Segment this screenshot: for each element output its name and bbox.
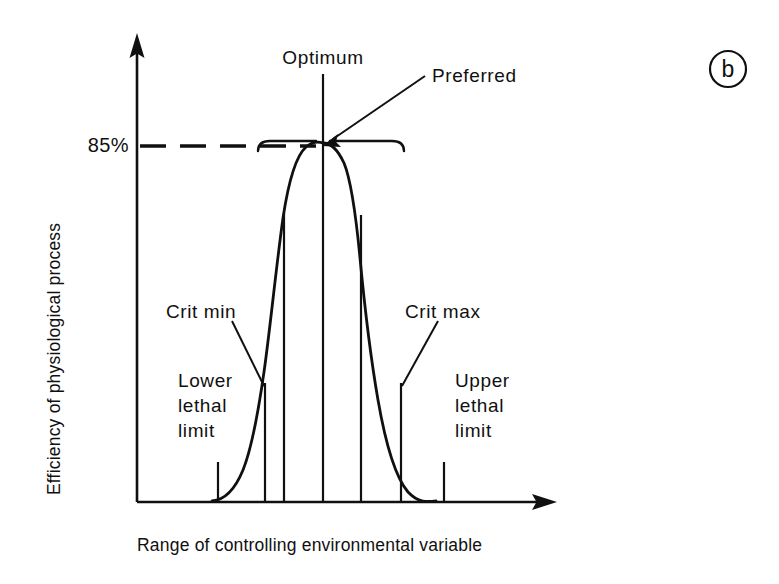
label-crit-max: Crit max bbox=[405, 301, 481, 322]
label-upper-lethal-limit-line1: Upper bbox=[455, 370, 510, 391]
panel-label-text: b bbox=[722, 56, 735, 82]
leader-line-preferred bbox=[333, 76, 425, 139]
label-lower-lethal-limit: Lower lethal limit bbox=[178, 370, 233, 441]
y-axis-tick-label-85-percent: 85% bbox=[88, 134, 129, 156]
label-preferred: Preferred bbox=[432, 65, 517, 86]
x-axis-title: Range of controlling environmental varia… bbox=[137, 535, 482, 555]
leader-lines-group bbox=[232, 76, 438, 386]
label-upper-lethal-limit: Upper lethal limit bbox=[455, 370, 510, 441]
label-lower-lethal-limit-line3: limit bbox=[178, 420, 215, 441]
label-upper-lethal-limit-line2: lethal bbox=[455, 395, 504, 416]
label-lower-lethal-limit-line1: Lower bbox=[178, 370, 233, 391]
figure-page: Optimum Preferred 85% Crit min Crit max … bbox=[0, 0, 779, 584]
label-upper-lethal-limit-line3: limit bbox=[455, 420, 492, 441]
panel-label-badge: b bbox=[710, 51, 746, 87]
leader-line-crit-min bbox=[232, 321, 264, 386]
label-lower-lethal-limit-line2: lethal bbox=[178, 395, 227, 416]
label-optimum: Optimum bbox=[282, 47, 363, 68]
label-crit-min: Crit min bbox=[166, 301, 236, 322]
tolerance-curve-figure: Optimum Preferred 85% Crit min Crit max … bbox=[0, 0, 779, 584]
leader-line-crit-max bbox=[402, 321, 438, 386]
y-axis-title: Efficiency of physiological process bbox=[44, 223, 64, 495]
